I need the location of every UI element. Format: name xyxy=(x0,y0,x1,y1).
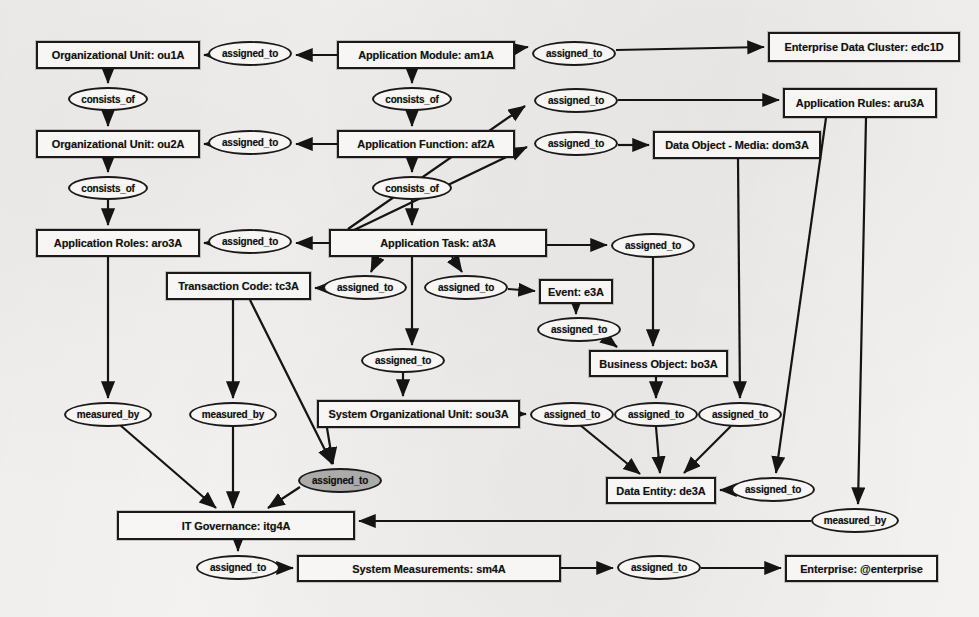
edge-label-assigned-to[interactable]: assigned_to xyxy=(731,477,815,502)
edge-label-assigned-to[interactable]: assigned_to xyxy=(361,348,445,373)
edge-measured_by-itg4A-a xyxy=(120,425,216,508)
edge-assigned_to-de3A-b xyxy=(656,427,660,473)
edge-aru3A-measured_by xyxy=(858,118,866,504)
node-de3A[interactable]: Data Entity: de3A xyxy=(606,477,716,504)
edge-label-assigned-to[interactable]: assigned_to xyxy=(530,402,614,427)
edge-label-assigned-to[interactable]: assigned_to xyxy=(208,41,292,66)
edge-label-assigned-to[interactable]: assigned_to xyxy=(532,41,616,66)
node-af2A[interactable]: Application Function: af2A xyxy=(337,130,515,158)
node-e3A[interactable]: Event: e3A xyxy=(539,279,613,304)
edge-at3A-assigned_to-aru xyxy=(348,106,525,229)
node-aru3A[interactable]: Application Rules: aru3A xyxy=(783,88,937,118)
diagram-canvas: Organizational Unit: ou1AApplication Mod… xyxy=(0,0,979,617)
node-dom3A[interactable]: Data Object - Media: dom3A xyxy=(653,131,821,159)
edge-label-assigned-to[interactable]: assigned_to xyxy=(534,131,618,156)
node-itg4A[interactable]: IT Governance: itg4A xyxy=(117,511,355,540)
edge-label-assigned-to[interactable]: assigned_to xyxy=(323,275,407,300)
edge-label-assigned-to[interactable]: assigned_to xyxy=(208,130,292,155)
node-edc1D[interactable]: Enterprise Data Cluster: edc1D xyxy=(768,32,960,62)
edge-label-consists-of[interactable]: consists_of xyxy=(68,87,148,111)
edge-dom3A-assigned_to xyxy=(738,159,740,398)
edge-label-consists-of[interactable]: consists_of xyxy=(372,87,452,111)
node-ent[interactable]: Enterprise: @enterprise xyxy=(785,555,938,582)
node-at3A[interactable]: Application Task: at3A xyxy=(329,229,547,257)
edge-at3A-assigned_to-tc xyxy=(371,257,378,272)
node-ou2A[interactable]: Organizational Unit: ou2A xyxy=(36,130,200,158)
edge-am1A-assigned_to-2 xyxy=(515,47,528,49)
edge-label-assigned-to[interactable]: assigned_to xyxy=(617,555,701,580)
node-sm4A[interactable]: System Measurements: sm4A xyxy=(297,555,561,582)
edge-label-assigned-to[interactable]: assigned_to xyxy=(611,233,695,258)
edge-assigned_to-itg4A xyxy=(268,487,300,508)
edge-label-measured-by[interactable]: measured_by xyxy=(189,402,277,427)
edge-label-consists-of[interactable]: consists_of xyxy=(68,176,148,200)
node-ou1A[interactable]: Organizational Unit: ou1A xyxy=(36,41,200,69)
edge-label-consists-of[interactable]: consists_of xyxy=(372,176,452,200)
node-am1A[interactable]: Application Module: am1A xyxy=(337,41,515,69)
edge-assigned_to-de3A-a xyxy=(580,425,640,474)
edge-tc3A-assigned_to-itg xyxy=(250,300,332,464)
edge-label-assigned-to[interactable]: assigned_to xyxy=(537,317,621,342)
node-bo3A[interactable]: Business Object: bo3A xyxy=(589,350,728,377)
node-sou3A[interactable]: System Organizational Unit: sou3A xyxy=(317,400,520,428)
edge-label-assigned-to[interactable]: assigned_to xyxy=(196,555,280,580)
edge-assigned_to-bo3A-b xyxy=(605,338,617,347)
edge-label-assigned-to[interactable]: assigned_to xyxy=(208,229,292,254)
edge-label-assigned-to[interactable]: assigned_to xyxy=(534,88,618,113)
edge-assigned_to-de3A-c xyxy=(684,426,731,473)
edge-assigned_to-e3A xyxy=(508,289,535,291)
edge-label-assigned-to[interactable]: assigned_to xyxy=(614,402,698,427)
edge-assigned_to-edc1D xyxy=(616,47,764,50)
node-tc3A[interactable]: Transaction Code: tc3A xyxy=(166,272,311,300)
edge-label-assigned-to[interactable]: assigned_to xyxy=(698,402,782,427)
edge-label-measured-by[interactable]: measured_by xyxy=(64,402,152,427)
edge-label-assigned-to[interactable]: assigned_to xyxy=(424,275,508,300)
edge-at3A-assigned_to-e xyxy=(452,257,462,272)
edge-label-measured-by[interactable]: measured_by xyxy=(811,508,899,533)
node-aro3A[interactable]: Application Roles: aro3A xyxy=(36,229,200,257)
edge-label-assigned-to[interactable]: assigned_to xyxy=(298,468,382,493)
edge-aru3A-assigned_to-de xyxy=(776,118,826,473)
